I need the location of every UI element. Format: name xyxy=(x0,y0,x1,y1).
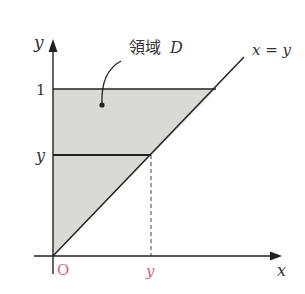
line-x-equals-y-label: x = y xyxy=(252,41,292,59)
region-label-symbol: D xyxy=(169,38,183,57)
region-label: 領域 D xyxy=(129,38,183,57)
y-axis-label: y xyxy=(33,32,44,52)
y-tick-1-label: 1 xyxy=(36,81,46,99)
x-tick-y-label: y xyxy=(145,262,155,280)
region-leader-dot xyxy=(99,102,104,107)
region-diagram: y 1 y 領域 D x = y O y x xyxy=(0,0,305,294)
region-label-word: 領域 xyxy=(129,38,161,57)
y-tick-y-label: y xyxy=(35,146,46,165)
x-axis-label: x xyxy=(277,261,286,280)
x-axis-arrow-icon xyxy=(270,252,282,261)
origin-label: O xyxy=(57,261,69,279)
y-axis-arrow-icon xyxy=(49,39,58,52)
